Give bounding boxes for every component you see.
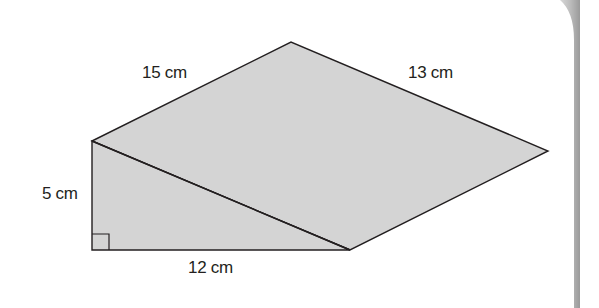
- page-edge-bar: [560, 0, 580, 308]
- composite-triangle-diagram: [0, 0, 599, 308]
- label-5cm: 5 cm: [42, 184, 78, 204]
- label-12cm: 12 cm: [188, 258, 233, 278]
- label-15cm: 15 cm: [142, 63, 187, 83]
- label-13cm: 13 cm: [408, 63, 453, 83]
